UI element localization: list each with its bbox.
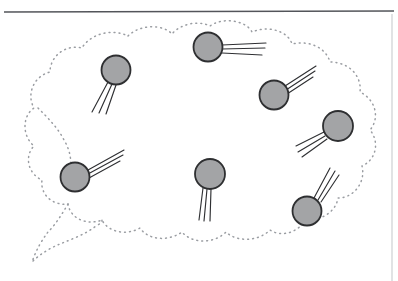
upper-right-particle-circle xyxy=(260,81,289,110)
diagram-canvas xyxy=(0,0,398,281)
center-particle-circle xyxy=(195,159,225,189)
top-center-particle-circle xyxy=(194,33,223,62)
left-particle-circle xyxy=(61,163,90,192)
horizontal-rule xyxy=(4,11,394,12)
right-particle-circle xyxy=(323,111,353,141)
top-left-particle-circle xyxy=(102,56,131,85)
bottom-right-particle-circle xyxy=(293,197,322,226)
figure-root xyxy=(0,0,398,281)
